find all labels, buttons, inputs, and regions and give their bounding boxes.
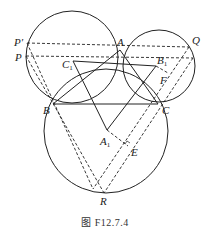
dashed-Q2-R (104, 58, 193, 193)
right-angle-mark-E (125, 141, 130, 144)
label-A1: A1 (99, 135, 111, 149)
label-A: A (116, 36, 124, 48)
label-F: F (159, 74, 167, 86)
triangle-A1B1C1 (73, 61, 156, 130)
figure-caption: 图 F12.7.4 (0, 214, 210, 229)
dashed-P-R (26, 56, 104, 193)
right-circle (123, 30, 195, 102)
dashed-Pprime-Q (27, 43, 189, 47)
label-C1: C1 (62, 58, 73, 72)
label-C: C (162, 104, 170, 116)
label-B: B (43, 104, 50, 116)
dashed-P-Q2 (26, 56, 193, 58)
label-E: E (130, 146, 138, 158)
label-P: P (14, 51, 22, 63)
label-B1: B1 (157, 54, 168, 68)
label-P-prime: P′ (13, 36, 24, 48)
dashed-Pprime-Rprime (27, 43, 93, 189)
label-Q: Q (192, 34, 200, 46)
label-R: R (99, 195, 107, 207)
geometry-figure: A B C P′ P Q C1 B1 A1 E F R (0, 0, 210, 210)
dashed-Q-Rprime (93, 47, 189, 189)
